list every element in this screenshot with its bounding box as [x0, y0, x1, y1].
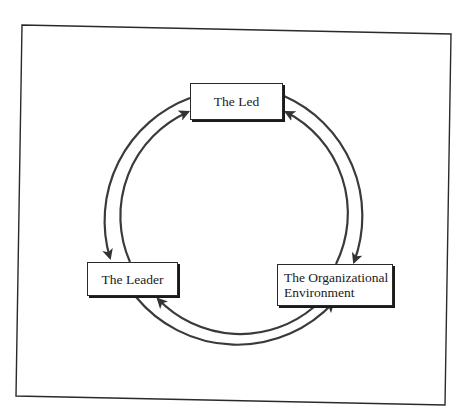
arrow-led-to-environment: [284, 96, 362, 262]
arrow-led-to-leader: [105, 98, 190, 258]
arrow-leader-to-led: [120, 112, 188, 262]
node-label: The Led: [214, 94, 259, 109]
arrow-environment-to-led: [286, 112, 348, 264]
node-the-leader: The Leader: [87, 262, 178, 296]
node-label-line1: The Organizational: [284, 270, 388, 285]
diagram-canvas: [0, 0, 466, 417]
node-label: The Leader: [102, 272, 164, 287]
node-organizational-environment: The Organizational Environment: [277, 264, 393, 306]
diagram-frame: [16, 25, 451, 405]
node-the-led: The Led: [190, 83, 283, 120]
node-label-line2: Environment: [284, 285, 355, 300]
